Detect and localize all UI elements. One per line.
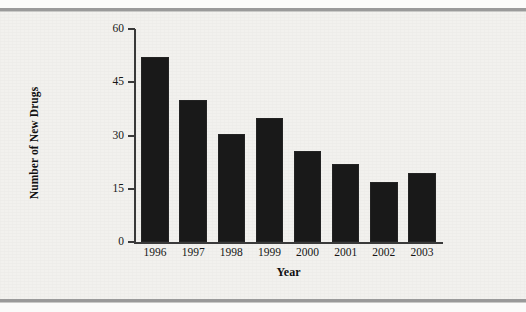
x-axis-tick-label: 1998 [212, 247, 250, 259]
y-axis-tick [128, 241, 135, 243]
x-axis-tick-label: 1997 [174, 247, 212, 259]
y-axis-tick-label-text: 60 [100, 23, 124, 35]
y-axis-tick [128, 135, 135, 137]
x-axis-tick-label: 1999 [250, 247, 288, 259]
y-axis-tick [128, 81, 135, 83]
x-axis-tick-label: 2002 [365, 247, 403, 259]
bar [332, 164, 359, 242]
y-axis-tick [128, 28, 135, 30]
figure-page: 015304560 199619971998199920002001200220… [0, 0, 526, 312]
bar [294, 151, 321, 242]
y-axis-tick-label: 30 [98, 130, 124, 142]
bar [256, 118, 283, 242]
y-axis-tick-label-text: 15 [100, 183, 124, 195]
bar [141, 57, 168, 242]
y-axis-tick-label-text: 0 [100, 236, 124, 248]
x-axis-tick-label: 2001 [327, 247, 365, 259]
x-axis-tick-label: 2003 [403, 247, 441, 259]
y-axis-tick-label-text: 30 [100, 130, 124, 142]
y-axis-tick-label: 0 [98, 236, 124, 248]
bar [408, 173, 435, 242]
y-axis-tick-label-text: 45 [100, 76, 124, 88]
y-axis-tick [128, 188, 135, 190]
y-axis-tick-label: 15 [98, 183, 124, 195]
x-axis-tick-label: 2000 [289, 247, 327, 259]
bar [218, 134, 245, 242]
bar-chart: 015304560 199619971998199920002001200220… [0, 0, 526, 312]
bar [179, 100, 206, 242]
bar [370, 182, 397, 242]
x-axis-line [134, 242, 443, 244]
y-axis-tick-label: 45 [98, 76, 124, 88]
x-axis-tick-label: 1996 [136, 247, 174, 259]
y-axis-title: Number of New Drugs [28, 58, 40, 228]
x-axis-title: Year [134, 265, 443, 280]
y-axis-tick-label: 60 [98, 23, 124, 35]
